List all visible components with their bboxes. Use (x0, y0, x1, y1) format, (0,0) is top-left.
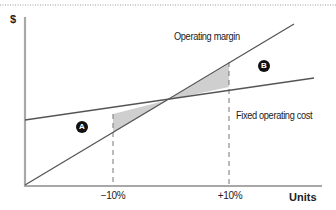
tick-minus-10: −10% (101, 190, 126, 201)
chart: $ Units −10% +10% Operating margin Fixed… (0, 0, 336, 210)
fixed-cost-label: Fixed operating cost (236, 109, 312, 121)
y-axis-label: $ (10, 13, 16, 25)
operating-margin-line (25, 24, 294, 185)
operating-margin-label: Operating margin (174, 30, 240, 42)
x-axis-label: Units (289, 191, 317, 203)
tick-plus-10: +10% (218, 190, 243, 201)
marker-a: A (76, 121, 88, 133)
marker-b: B (258, 60, 270, 72)
chart-canvas (0, 0, 336, 210)
